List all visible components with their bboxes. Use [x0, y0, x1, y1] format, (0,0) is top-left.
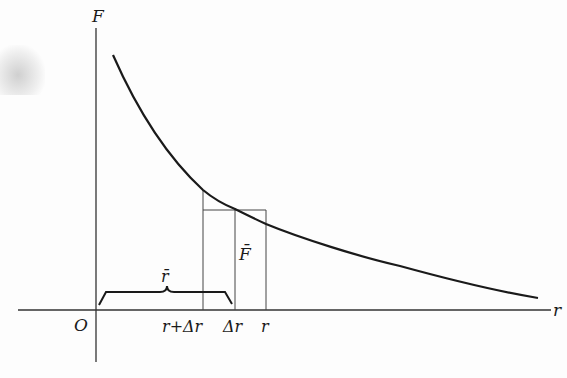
label-dr: Δr [222, 317, 244, 336]
force-curve [113, 55, 538, 298]
origin-label: O [74, 315, 88, 335]
label-r-plus-dr: r+Δr [162, 317, 204, 336]
mean-force-label: F̄ [238, 243, 252, 264]
y-axis-label: F [91, 6, 105, 26]
force-diagram: F r O r+Δr Δr r r̄ F̄ [0, 0, 567, 378]
figure-canvas: F r O r+Δr Δr r r̄ F̄ [0, 0, 567, 378]
x-axis-label: r [553, 300, 562, 320]
brace-icon [99, 286, 232, 305]
label-r: r [261, 317, 270, 336]
brace-label-rbar: r̄ [161, 267, 170, 286]
